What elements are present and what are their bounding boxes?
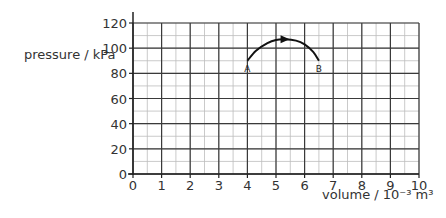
x-axis-label: volume / 10⁻³ m³ bbox=[322, 187, 433, 202]
x-tick-label: 4 bbox=[243, 178, 251, 193]
x-tick-label: 0 bbox=[129, 178, 137, 193]
x-tick-label: 2 bbox=[186, 178, 194, 193]
x-tick-label: 6 bbox=[300, 178, 308, 193]
point-label-a: A bbox=[244, 64, 251, 74]
x-tick-label: 1 bbox=[157, 178, 165, 193]
y-tick-label: 120 bbox=[102, 16, 127, 31]
y-tick-label: 60 bbox=[110, 92, 127, 107]
y-tick-labels: 020406080100120 bbox=[102, 16, 127, 182]
pv-chart: 012345678910 020406080100120 AB bbox=[0, 0, 446, 218]
y-tick-label: 80 bbox=[110, 66, 127, 81]
y-axis-label: pressure / kPa bbox=[24, 47, 116, 62]
x-tick-label: 3 bbox=[215, 178, 223, 193]
x-tick-label: 5 bbox=[272, 178, 280, 193]
y-tick-label: 0 bbox=[119, 167, 127, 182]
axes bbox=[128, 12, 419, 178]
point-label-b: B bbox=[316, 64, 322, 74]
point-labels: AB bbox=[244, 64, 322, 74]
direction-arrow-icon bbox=[281, 35, 290, 43]
y-tick-label: 40 bbox=[110, 117, 127, 132]
y-tick-label: 20 bbox=[110, 142, 127, 157]
